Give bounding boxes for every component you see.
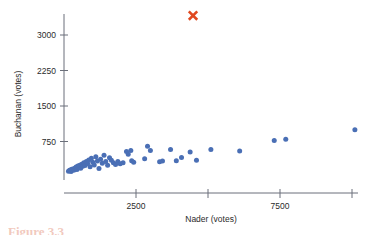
figure-caption: Figure 3.3 (8, 226, 118, 235)
data-point (272, 138, 277, 143)
outlier-point (189, 11, 197, 19)
y-tick-label-1500: 1500 (37, 101, 56, 111)
y-axis-title: Buchanan (votes) (13, 71, 23, 138)
data-point (102, 153, 107, 158)
data-point (142, 156, 147, 161)
x-tick-label-2500: 2500 (127, 201, 146, 211)
data-point (93, 154, 98, 159)
y-tick-label-2250: 2250 (37, 66, 56, 76)
data-point (96, 166, 101, 171)
data-point (128, 148, 133, 153)
data-point (174, 158, 179, 163)
data-point (92, 162, 97, 167)
scatter-plot-figure: 75015002250300025007500Nader (votes)Buch… (0, 0, 365, 235)
chart-canvas: 75015002250300025007500Nader (votes)Buch… (0, 0, 365, 235)
data-point (131, 160, 136, 165)
x-tick-label-7500: 7500 (271, 201, 290, 211)
series-palm-beach-outlier (189, 11, 197, 19)
data-point (352, 127, 357, 132)
data-point (188, 149, 193, 154)
data-point (145, 144, 150, 149)
x-axis-title: Nader (votes) (185, 214, 237, 224)
data-point (148, 148, 153, 153)
figure-caption-text: Figure 3.3 (8, 226, 64, 235)
y-tick-label-750: 750 (42, 137, 56, 147)
data-point (121, 160, 126, 165)
y-tick-label-3000: 3000 (37, 30, 56, 40)
data-point (160, 158, 165, 163)
series-counties (66, 127, 357, 174)
data-point (105, 163, 110, 168)
data-point (283, 137, 288, 142)
data-point (208, 147, 213, 152)
data-point (237, 148, 242, 153)
data-point (194, 158, 199, 163)
data-point (168, 147, 173, 152)
data-point (179, 155, 184, 160)
